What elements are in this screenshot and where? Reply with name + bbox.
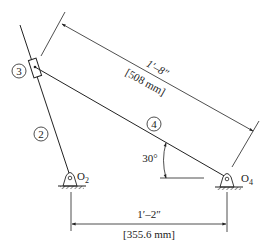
dimension-ground-imperial: 1′–2″ xyxy=(137,208,161,220)
svg-text:4: 4 xyxy=(151,118,157,130)
angle-annotation: 30° xyxy=(142,143,204,178)
slider-block-3 xyxy=(28,58,41,78)
pivot-O4: O4 xyxy=(215,172,253,190)
pivot-O2: O2 xyxy=(58,170,89,189)
pivot-O4-label: O4 xyxy=(241,172,253,187)
linkage-diagram: 1′–8″ [508 mm] 3 2 4 O2 O4 30° xyxy=(0,0,270,252)
link-4 xyxy=(35,67,226,177)
svg-text:2: 2 xyxy=(38,128,44,140)
svg-text:3: 3 xyxy=(16,65,22,77)
angle-label: 30° xyxy=(142,152,157,164)
label-link-4: 4 xyxy=(147,117,161,131)
dimension-ground-length: 1′–2″ [355.6 mm] xyxy=(71,192,227,240)
link-2 xyxy=(20,25,70,176)
pivot-O2-label: O2 xyxy=(77,170,89,185)
label-link-2: 2 xyxy=(34,127,48,141)
label-link-3: 3 xyxy=(12,64,26,78)
dimension-ground-metric: [355.6 mm] xyxy=(123,228,175,240)
